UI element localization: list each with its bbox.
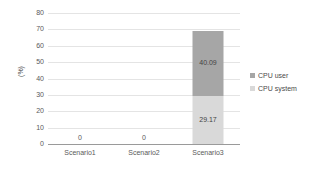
y-tick-label: 80 bbox=[22, 9, 44, 17]
plot-area: 0 0 40.09 29.17 bbox=[48, 13, 240, 144]
y-tick-label: 30 bbox=[22, 91, 44, 99]
data-label-cpu-system: 29.17 bbox=[199, 116, 217, 124]
y-tick-label: 10 bbox=[22, 124, 44, 132]
y-tick-label: 70 bbox=[22, 25, 44, 33]
y-tick-label: 50 bbox=[22, 58, 44, 66]
x-tick-label-scenario3: Scenario3 bbox=[176, 148, 240, 157]
bar-stack-scenario3[interactable]: 40.09 29.17 bbox=[193, 31, 224, 144]
column-scenario1: 0 bbox=[48, 13, 112, 144]
stacked-column-chart: (%) 80 70 60 50 40 30 20 10 0 0 0 bbox=[0, 0, 315, 178]
legend-swatch-icon bbox=[250, 73, 255, 78]
data-label-zero: 0 bbox=[142, 134, 146, 142]
chart-legend: CPU user CPU system bbox=[250, 69, 312, 95]
legend-swatch-icon bbox=[250, 86, 255, 91]
bar-segment-cpu-system[interactable]: 29.17 bbox=[193, 96, 224, 144]
y-tick-label: 60 bbox=[22, 42, 44, 50]
data-label-zero: 0 bbox=[78, 134, 82, 142]
y-tick-label: 20 bbox=[22, 107, 44, 115]
y-tick-label: 0 bbox=[22, 140, 44, 148]
legend-item-cpu-user[interactable]: CPU user bbox=[250, 69, 312, 82]
y-axis-tick-labels: 80 70 60 50 40 30 20 10 0 bbox=[22, 0, 44, 178]
column-scenario3: 40.09 29.17 bbox=[176, 13, 240, 144]
data-label-cpu-user: 40.09 bbox=[199, 59, 217, 67]
legend-label: CPU user bbox=[258, 72, 288, 80]
x-tick-label-scenario1: Scenario1 bbox=[48, 148, 112, 157]
bar-segment-cpu-user[interactable]: 40.09 bbox=[193, 31, 224, 97]
x-tick-label-scenario2: Scenario2 bbox=[112, 148, 176, 157]
x-axis-tick-labels: Scenario1 Scenario2 Scenario3 bbox=[48, 148, 240, 157]
x-axis-line bbox=[48, 144, 240, 145]
column-series-group: 0 0 40.09 29.17 bbox=[48, 13, 240, 144]
legend-item-cpu-system[interactable]: CPU system bbox=[250, 82, 312, 95]
y-tick-label: 40 bbox=[22, 75, 44, 83]
column-scenario2: 0 bbox=[112, 13, 176, 144]
legend-label: CPU system bbox=[258, 85, 297, 93]
